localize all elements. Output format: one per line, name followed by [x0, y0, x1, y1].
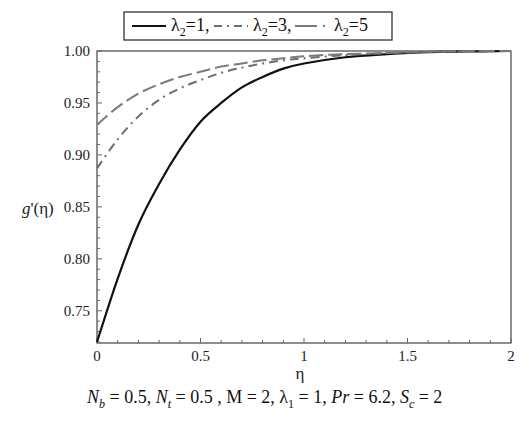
- series-line-3: [97, 51, 511, 125]
- series-line-2: [97, 51, 511, 168]
- y-tick-label: 0.80: [64, 251, 90, 267]
- series-line-1: [97, 51, 511, 342]
- legend: λ2=1,λ2=3,λ2=5: [124, 12, 392, 40]
- x-tick-label: 1.5: [398, 348, 417, 364]
- tick-labels: 00.511.520.750.800.850.900.951.00: [64, 43, 515, 364]
- parameter-caption: Nb = 0.5, Nt = 0.5 , M = 2, λ1 = 1, Pr =…: [86, 387, 442, 411]
- x-axis-title: η: [296, 364, 305, 383]
- y-tick-label: 0.95: [64, 95, 90, 111]
- plot-frame: [97, 51, 511, 343]
- y-axis-title: g'(η): [22, 199, 54, 218]
- y-tick-label: 0.90: [64, 147, 90, 163]
- y-tick-label: 0.75: [64, 303, 90, 319]
- x-tick-label: 0: [93, 348, 101, 364]
- axis-ticks: [97, 51, 511, 343]
- data-series: [97, 51, 511, 342]
- y-tick-label: 1.00: [64, 43, 90, 59]
- x-tick-label: 0.5: [191, 348, 210, 364]
- x-tick-label: 1: [300, 348, 308, 364]
- x-tick-label: 2: [507, 348, 515, 364]
- y-tick-label: 0.85: [64, 199, 90, 215]
- line-chart: λ2=1,λ2=3,λ2=5 00.511.520.750.800.850.90…: [0, 0, 529, 425]
